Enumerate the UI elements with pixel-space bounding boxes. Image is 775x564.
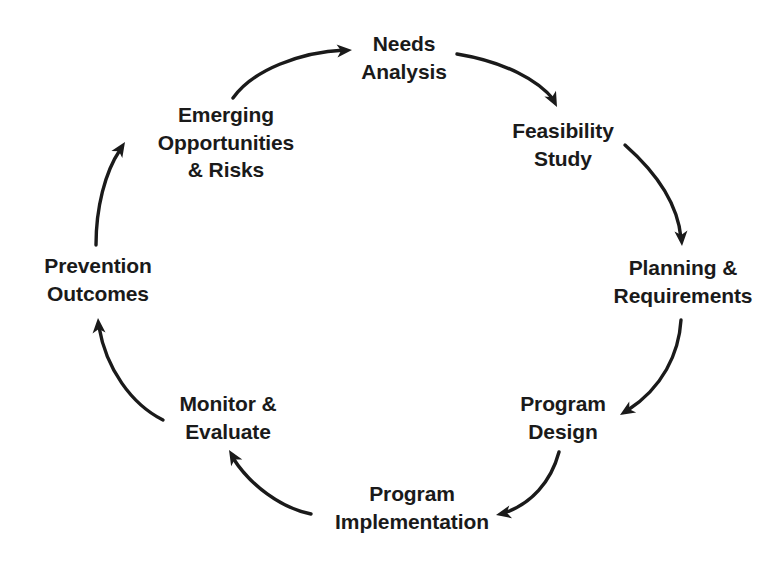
node-label-line: Emerging bbox=[158, 101, 294, 129]
node-label-line: & Risks bbox=[158, 157, 294, 185]
node-label-needs-analysis: NeedsAnalysis bbox=[361, 30, 447, 85]
cycle-diagram: NeedsAnalysis FeasibilityStudy Planning … bbox=[0, 0, 775, 564]
arrow-monitor-to-prevention bbox=[92, 318, 163, 420]
node-label-monitor-evaluate: Monitor &Evaluate bbox=[179, 390, 276, 445]
node-label-line: Needs bbox=[361, 30, 447, 58]
node-label-line: Monitor & bbox=[179, 390, 276, 418]
node-label-line: Implementation bbox=[335, 508, 489, 536]
node-label-prevention-outcomes: PreventionOutcomes bbox=[44, 252, 152, 307]
node-label-line: Study bbox=[512, 145, 614, 173]
arrowhead-icon bbox=[495, 506, 512, 522]
node-label-line: Prevention bbox=[44, 252, 152, 280]
arrow-curve bbox=[504, 452, 559, 513]
arrow-planning-to-design bbox=[617, 320, 681, 421]
arrow-needs-to-feasibility bbox=[457, 54, 563, 110]
node-label-emerging-opportunities-risks: EmergingOpportunities& Risks bbox=[158, 101, 294, 184]
arrow-implementation-to-monitor bbox=[223, 447, 311, 514]
node-label-line: Outcomes bbox=[44, 280, 152, 308]
node-label-line: Planning & bbox=[614, 254, 753, 282]
arrow-curve bbox=[628, 320, 681, 410]
arrow-curve bbox=[96, 150, 120, 245]
arrowhead-icon bbox=[223, 447, 242, 467]
node-label-line: Requirements bbox=[614, 282, 753, 310]
node-label-line: Program bbox=[520, 390, 606, 418]
arrow-curve bbox=[99, 327, 163, 420]
node-label-program-implementation: ProgramImplementation bbox=[335, 480, 489, 535]
arrow-curve bbox=[233, 50, 345, 98]
node-label-line: Analysis bbox=[361, 58, 447, 86]
node-label-line: Opportunities bbox=[158, 129, 294, 157]
node-label-line: Program bbox=[335, 480, 489, 508]
arrow-curve bbox=[233, 458, 311, 514]
node-label-line: Evaluate bbox=[179, 418, 276, 446]
node-label-line: Design bbox=[520, 418, 606, 446]
node-label-program-design: ProgramDesign bbox=[520, 390, 606, 445]
arrow-prevention-to-emerging bbox=[96, 138, 130, 245]
node-label-planning-requirements: Planning &Requirements bbox=[614, 254, 753, 309]
arrow-curve bbox=[457, 54, 554, 100]
arrow-emerging-to-needs bbox=[233, 44, 352, 98]
node-label-line: Feasibility bbox=[512, 117, 614, 145]
node-label-feasibility-study: FeasibilityStudy bbox=[512, 117, 614, 172]
arrow-curve bbox=[625, 145, 681, 238]
arrowhead-icon bbox=[111, 138, 130, 158]
arrow-feasibility-to-planning bbox=[625, 145, 688, 246]
arrow-design-to-implementation bbox=[495, 452, 559, 521]
